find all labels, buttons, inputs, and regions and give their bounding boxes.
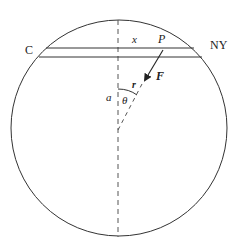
label-f: F <box>155 69 164 83</box>
label-p: P <box>157 32 166 46</box>
tunnel-diagram: C NY x P F r a θ <box>0 0 240 249</box>
label-c: C <box>25 43 33 57</box>
label-ny: NY <box>210 38 228 52</box>
label-r: r <box>132 79 136 90</box>
label-a: a <box>106 91 112 103</box>
label-x: x <box>131 33 137 45</box>
label-theta: θ <box>122 94 128 106</box>
